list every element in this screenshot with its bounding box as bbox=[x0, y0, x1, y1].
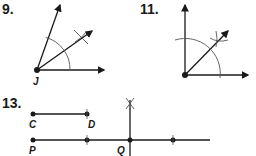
vertex-j-dot bbox=[34, 67, 40, 73]
label-q: Q bbox=[117, 145, 125, 156]
label-c: C bbox=[29, 119, 36, 130]
problem-number-9: 9. bbox=[2, 1, 14, 17]
vertex-dot bbox=[182, 72, 188, 78]
label-p: P bbox=[29, 145, 36, 156]
figure-9 bbox=[34, 5, 104, 73]
problem-number-13: 13. bbox=[2, 95, 21, 111]
problem-number-11: 11. bbox=[140, 1, 159, 17]
label-d: D bbox=[88, 119, 95, 130]
label-j: J bbox=[33, 76, 39, 87]
figure-11 bbox=[175, 5, 248, 78]
